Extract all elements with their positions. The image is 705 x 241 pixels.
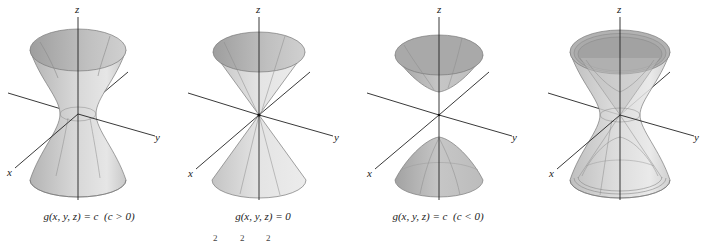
caption-equation: g(x, y, z) = c — [43, 210, 98, 222]
superscript: 2 — [213, 233, 218, 241]
superscript: 2 — [266, 233, 271, 241]
z-axis-label: z — [616, 3, 622, 15]
superscript: 2 — [240, 233, 245, 241]
x-axis-label: x — [187, 167, 193, 179]
panel-hyperboloid-one-sheet: z y x — [6, 3, 160, 200]
z-axis-label: z — [74, 3, 80, 15]
z-axis-label: z — [255, 3, 261, 15]
caption-panel-3: g(x, y, z) = c (c < 0) — [392, 210, 483, 222]
origin-point — [257, 113, 260, 116]
x-axis-label: x — [548, 167, 554, 179]
caption-condition: (c < 0) — [453, 210, 484, 222]
caption-equation: g(x, y, z) = 0 — [235, 210, 291, 222]
panel-hyperboloid-two-sheets: z y x — [366, 3, 517, 200]
y-axis-label: y — [154, 131, 160, 143]
origin-point — [438, 114, 440, 116]
panel-double-cone: z y x — [187, 3, 339, 200]
x-axis-label: x — [6, 166, 12, 178]
caption-panel-2: g(x, y, z) = 0 — [235, 210, 291, 222]
y-axis-label: y — [333, 131, 339, 143]
caption-panel-1: g(x, y, z) = c (c > 0) — [43, 210, 134, 222]
z-axis-label: z — [436, 3, 442, 15]
caption-condition: (c > 0) — [104, 210, 135, 222]
x-axis-label: x — [366, 167, 372, 179]
y-axis-label: y — [511, 131, 517, 143]
panel-combined-level-surfaces: z y x — [548, 3, 699, 200]
y-axis-label: y — [693, 131, 699, 143]
y-axis-front — [439, 115, 512, 136]
caption-equation: g(x, y, z) = c — [392, 210, 447, 222]
y-axis-back — [367, 93, 439, 115]
level-surfaces-figure: z y x z y x — [0, 0, 705, 241]
